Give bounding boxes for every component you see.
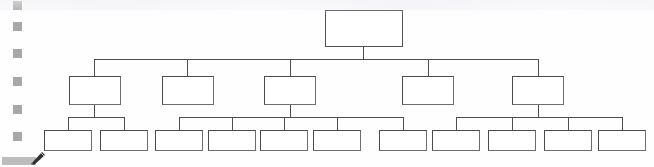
connector-groupC-bus <box>456 117 622 118</box>
connector-groupC-drop-4 <box>622 117 623 130</box>
org-node-level3-4[interactable] <box>208 130 256 151</box>
margin-marker-4[interactable] <box>13 77 22 86</box>
org-node-level3-10[interactable] <box>544 130 592 151</box>
org-node-root[interactable] <box>325 10 403 47</box>
connector-groupC-stem <box>538 105 539 117</box>
org-node-level3-7[interactable] <box>379 130 427 151</box>
connector-groupB-drop-3 <box>284 117 285 130</box>
connector-groupB-drop-4 <box>337 117 338 130</box>
connector-groupB-drop-5 <box>403 117 404 130</box>
connector-groupC-drop-2 <box>512 117 513 130</box>
pen-pointer <box>2 150 60 167</box>
org-node-level2-4[interactable] <box>402 76 454 105</box>
connector-groupC-drop-3 <box>568 117 569 130</box>
connector-groupA-drop-1 <box>68 117 69 130</box>
connector-level2-drop-2 <box>187 59 188 76</box>
connector-level2-drop-1 <box>94 59 95 76</box>
left-margin-markers <box>0 0 34 167</box>
org-node-level3-1[interactable] <box>44 130 92 151</box>
margin-marker-5[interactable] <box>13 105 22 114</box>
org-node-level2-3[interactable] <box>264 76 316 105</box>
connector-groupA-stem <box>94 105 95 117</box>
margin-marker-2[interactable] <box>13 22 22 31</box>
connector-level2-drop-3 <box>290 59 291 76</box>
connector-groupB-bus <box>179 117 403 118</box>
org-node-level2-2[interactable] <box>162 76 214 105</box>
margin-marker-3[interactable] <box>13 49 22 58</box>
org-node-level3-11[interactable] <box>598 130 646 151</box>
diagram-canvas <box>0 0 654 167</box>
pen-cursor-icon <box>29 151 47 166</box>
connector-groupB-drop-2 <box>232 117 233 130</box>
connector-root-stem <box>363 47 364 59</box>
connector-level2-drop-5 <box>538 59 539 76</box>
org-node-level3-6[interactable] <box>313 130 361 151</box>
margin-marker-6[interactable] <box>13 132 22 141</box>
org-node-level3-8[interactable] <box>432 130 480 151</box>
connector-groupB-drop-1 <box>179 117 180 130</box>
org-node-level3-9[interactable] <box>488 130 536 151</box>
connector-level2-drop-4 <box>428 59 429 76</box>
margin-marker-1[interactable] <box>13 1 22 10</box>
org-node-level3-3[interactable] <box>155 130 203 151</box>
org-node-level2-5[interactable] <box>512 76 564 105</box>
connector-groupB-stem <box>290 105 291 117</box>
connector-groupA-drop-2 <box>124 117 125 130</box>
connector-groupA-bus <box>68 117 124 118</box>
connector-groupC-drop-1 <box>456 117 457 130</box>
org-node-level2-1[interactable] <box>69 76 121 105</box>
org-node-level3-2[interactable] <box>100 130 148 151</box>
page-top-wash <box>0 0 654 10</box>
org-node-level3-5[interactable] <box>260 130 308 151</box>
connector-level2-bus <box>94 59 538 60</box>
